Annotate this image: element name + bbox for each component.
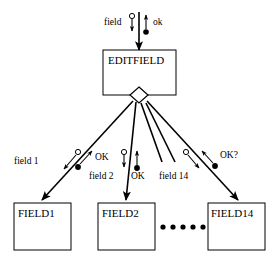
field2-box-label: FIELD2 bbox=[102, 207, 139, 219]
link-line-mid-b bbox=[146, 103, 175, 162]
filled-dot-icon-ok1 bbox=[75, 164, 81, 170]
field1-box[interactable]: FIELD1 bbox=[14, 203, 71, 250]
editfield-box-label: EDITFIELD bbox=[108, 54, 164, 66]
ellipsis-dots bbox=[160, 224, 205, 229]
object-interaction-diagram: field ok EDITFIELD field 1 OK bbox=[0, 0, 279, 263]
top-in-label-field: field bbox=[104, 17, 122, 27]
ellipsis-dot bbox=[170, 224, 175, 229]
link-label-field1: field 1 bbox=[14, 156, 39, 166]
link-label-ok1: OK bbox=[95, 152, 109, 162]
hollow-dot-icon-field2 bbox=[121, 149, 126, 154]
link-label-ok14: OK? bbox=[220, 150, 238, 160]
link-label-ok2: OK bbox=[131, 171, 145, 181]
field14-box-label: FIELD14 bbox=[211, 207, 254, 219]
ellipsis-dot bbox=[200, 224, 205, 229]
field1-box-label: FIELD1 bbox=[18, 207, 55, 219]
link-editfield-field14: OK? bbox=[147, 101, 238, 200]
ellipsis-dot bbox=[160, 224, 165, 229]
down-left-arrow-icon-field1 bbox=[64, 155, 76, 169]
up-left-arrow-icon-ok14 bbox=[202, 151, 213, 163]
top-out-marker-ok bbox=[143, 15, 149, 35]
top-out-label-ok: ok bbox=[153, 17, 163, 27]
field14-box[interactable]: FIELD14 bbox=[208, 203, 265, 250]
link-line-field2 bbox=[126, 102, 136, 200]
top-in-marker-field bbox=[129, 13, 134, 31]
link-line-field1 bbox=[42, 101, 133, 200]
field2-box[interactable]: FIELD2 bbox=[98, 203, 155, 250]
filled-dot-icon-ok14 bbox=[212, 163, 218, 169]
hollow-dot-icon bbox=[129, 13, 134, 18]
link-editfield-field2: field 2 OK bbox=[89, 102, 145, 200]
link-line-mid-a bbox=[141, 103, 162, 162]
ellipsis-dot bbox=[180, 224, 185, 229]
ellipsis-dot bbox=[190, 224, 195, 229]
hollow-dot-icon-field1 bbox=[75, 149, 80, 154]
diagram-canvas: field ok EDITFIELD field 1 OK bbox=[0, 0, 279, 263]
top-message-stem: field ok bbox=[104, 12, 163, 50]
link-label-field14: field 14 bbox=[159, 171, 189, 181]
link-editfield-field1: field 1 OK bbox=[14, 101, 133, 200]
hollow-dot-icon-field14 bbox=[183, 149, 188, 154]
link-label-field2: field 2 bbox=[89, 171, 114, 181]
filled-dot-icon bbox=[143, 29, 149, 35]
